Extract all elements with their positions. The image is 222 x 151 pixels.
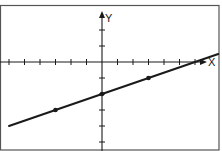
data-point [146,76,151,81]
chart: X Y [0,0,222,151]
x-axis-label: X [208,56,216,68]
y-axis [99,11,105,151]
x-axis [0,59,207,65]
data-point [100,92,105,97]
chart-frame [1,6,220,151]
y-axis-label: Y [105,12,113,24]
data-point [53,108,58,113]
